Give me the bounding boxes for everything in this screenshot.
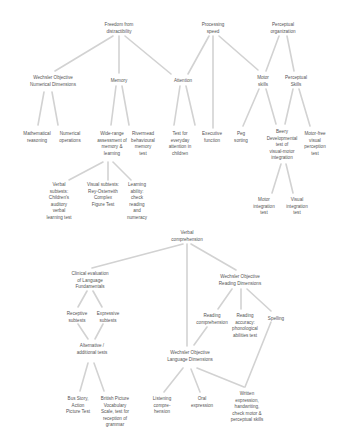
connector-line [69, 162, 103, 180]
connector-line [272, 164, 281, 193]
connector-line [113, 162, 131, 180]
node-oral-expression: Oral expression [191, 396, 213, 409]
connector-line [186, 86, 195, 125]
connector-line [78, 291, 87, 307]
connector-line [197, 368, 244, 387]
node-perceptual-organization: Perceptual organization [270, 22, 295, 35]
connector-line [247, 289, 271, 311]
node-mathematical-reasoning: Mathematical reasoning [23, 131, 50, 144]
node-alternative-tests: Alternative / additional tests [77, 343, 108, 356]
node-reading-accuracy: Reading accuracy: phonological abilities… [232, 313, 258, 339]
connector-line [95, 324, 103, 339]
node-wechsler-reading: Wechsler Objective Reading Dimensions [219, 274, 261, 287]
connector-line [52, 92, 58, 125]
node-executive-function: Executive function [202, 131, 222, 144]
node-wechsler-numerical: Wechsler Objective Numerical Dimensions [30, 75, 76, 88]
node-rivermead: Rivermead behavioural memory test [131, 131, 155, 157]
connector-line [111, 86, 116, 125]
connector-line [194, 327, 207, 345]
connector-line [286, 164, 293, 193]
node-verbal-comprehension: Verbal comprehension [171, 230, 202, 243]
connector-line [78, 324, 88, 339]
node-listening-comprehension: Listening compre- hension [153, 396, 171, 416]
connector-line [218, 289, 232, 309]
connector-line [299, 89, 310, 126]
node-processing-speed: Processing speed [202, 22, 225, 35]
connector-line [191, 369, 200, 392]
connector-line [174, 86, 180, 125]
connector-line [188, 36, 209, 74]
connector-line [219, 36, 258, 70]
node-freedom-from-distractibility: Freedom from distractibility [105, 22, 134, 35]
node-peg-sorting: Peg sorting [234, 131, 248, 144]
node-perceptual-skills: Perceptual Skills [285, 75, 307, 88]
node-everyday-attention: Test for everyday attention in children [169, 131, 191, 157]
connector-line [191, 244, 236, 270]
connector-line [285, 89, 293, 124]
connector-line [38, 92, 44, 125]
connector-line [125, 36, 171, 74]
connector-line [266, 89, 276, 124]
connector-line [93, 291, 102, 307]
node-expressive-subtests: Expressive subtests [97, 311, 119, 324]
node-motor-free: Motor-free visual perception test [304, 131, 325, 157]
connector-line [80, 363, 88, 391]
node-memory: Memory [111, 78, 128, 85]
node-clinical-evaluation: Clinical evaluation of Language Fundamen… [71, 271, 108, 291]
node-written-expression: Written expression, handwriting, check m… [231, 391, 264, 424]
node-receptive-subtests: Receptive subtests [67, 311, 87, 324]
connector-line [94, 363, 104, 391]
node-spelling: Spelling [268, 316, 284, 323]
node-wide-range-assessment: Wide-range assessment of memory & learni… [97, 131, 127, 157]
node-numerical-operations: Numerical operations [59, 131, 80, 144]
connector-line [287, 36, 294, 71]
connector-line [55, 36, 113, 71]
connector-line [266, 36, 279, 71]
node-motor-integration: Motor integration test [253, 197, 274, 217]
node-attention: Attention [174, 78, 192, 85]
connector-line [92, 244, 183, 268]
connector-line [164, 368, 183, 392]
node-visual-integration: Visual integration test [286, 197, 307, 217]
node-beery: Beery Developmental test of visual-motor… [267, 129, 298, 162]
connector-line [122, 86, 129, 125]
node-bus-story: Bus Story, Action Picture Test [66, 396, 90, 416]
connector-line [243, 89, 259, 126]
node-visual-subtests: Visual subtests: Rey-Osterreith Complex … [87, 182, 119, 208]
node-learning-ability: Learning ability: check reading and nume… [127, 182, 147, 222]
node-reading-comprehension: Reading comprehension [196, 313, 227, 326]
node-wechsler-language: Wechsler Objective Language Dimensions [167, 350, 213, 363]
node-motor-skills: Motor skills [257, 75, 269, 88]
node-british-picture-vocabulary: British Picture Vocabulary Scale, test f… [101, 396, 129, 429]
node-verbal-subtests: Verbal subtests: Children's auditory ver… [46, 182, 71, 222]
